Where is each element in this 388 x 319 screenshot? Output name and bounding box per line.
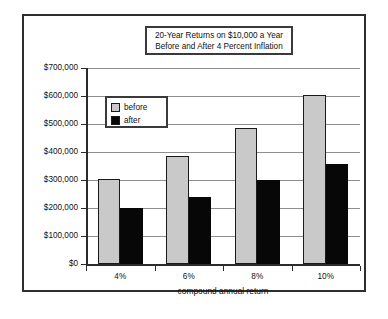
y-axis-label: $0: [14, 259, 78, 268]
y-axis-label: $200,000: [14, 203, 78, 212]
x-axis-label-10pct: 10%: [301, 272, 351, 281]
legend-swatch-before-icon: [111, 103, 120, 112]
bar-before-6pct: [166, 156, 189, 264]
x-axis-tick: [292, 266, 293, 271]
x-axis-label-6pct: 6%: [164, 272, 214, 281]
y-axis-label: $700,000: [14, 63, 78, 72]
legend-swatch-after-icon: [111, 116, 120, 125]
y-axis-label: $600,000: [14, 91, 78, 100]
chart-title-line-1: 20-Year Returns on $10,000 a Year: [155, 30, 283, 41]
bar-before-10pct: [303, 95, 326, 264]
bar-before-8pct: [235, 128, 258, 264]
chart-legend: before after: [105, 96, 168, 128]
x-axis-title: compound annual return: [86, 286, 360, 296]
gridline: [86, 68, 360, 69]
y-axis-line: [86, 68, 88, 265]
bar-after-6pct: [189, 197, 212, 264]
y-axis-label: $100,000: [14, 231, 78, 240]
legend-item-before: before: [111, 101, 162, 113]
x-axis-tick: [155, 266, 156, 271]
chart-title-box: 20-Year Returns on $10,000 a Year Before…: [145, 26, 293, 55]
y-axis-label: $400,000: [14, 147, 78, 156]
legend-label-before: before: [124, 103, 147, 112]
legend-label-after: after: [124, 116, 140, 125]
bar-after-10pct: [326, 164, 349, 264]
bar-after-8pct: [257, 180, 280, 264]
chart-figure: 20-Year Returns on $10,000 a Year Before…: [0, 0, 388, 319]
x-axis-label-4pct: 4%: [95, 272, 145, 281]
y-axis-label: $300,000: [14, 175, 78, 184]
legend-item-after: after: [111, 114, 162, 126]
x-axis-label-8pct: 8%: [232, 272, 282, 281]
x-axis-line: [86, 264, 360, 266]
x-axis-tick: [223, 266, 224, 271]
x-axis-tick: [360, 266, 361, 271]
x-axis-tick: [86, 266, 87, 271]
y-axis-label: $500,000: [14, 119, 78, 128]
chart-title-line-2: Before and After 4 Percent Inflation: [155, 41, 282, 52]
bar-after-4pct: [120, 208, 143, 264]
bar-before-4pct: [98, 179, 121, 264]
